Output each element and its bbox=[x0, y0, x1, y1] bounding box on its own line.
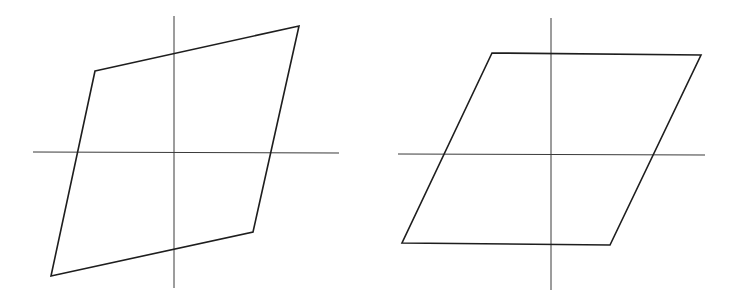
right-diagram bbox=[398, 18, 705, 290]
left-diagram bbox=[33, 16, 339, 288]
diagram-canvas bbox=[0, 0, 734, 300]
left-horizontal-axis bbox=[33, 152, 339, 153]
left-parallelogram-loop bbox=[51, 26, 299, 276]
